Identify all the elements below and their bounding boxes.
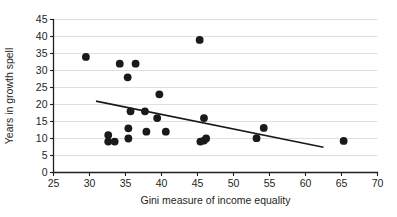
x-tick-label: 70 (372, 177, 384, 189)
y-tick-label: 25 (36, 81, 48, 93)
data-point (253, 134, 261, 142)
x-tick-label: 65 (336, 177, 348, 189)
x-axis-ticks: 25303540455055606570 (48, 173, 384, 190)
x-tick-label: 30 (84, 177, 96, 189)
y-tick-label: 10 (36, 132, 48, 144)
x-tick-label: 55 (264, 177, 276, 189)
x-tick-label: 35 (120, 177, 132, 189)
data-point (153, 114, 161, 122)
y-tick-label: 40 (36, 30, 48, 42)
y-tick-label: 35 (36, 47, 48, 59)
data-point (141, 107, 149, 115)
y-tick-label: 5 (42, 149, 48, 161)
data-point (202, 135, 210, 143)
data-point (260, 124, 268, 132)
data-point (340, 137, 348, 145)
y-tick-label: 30 (36, 64, 48, 76)
data-point (200, 114, 208, 122)
x-tick-label: 50 (228, 177, 240, 189)
x-tick-label: 40 (156, 177, 168, 189)
data-point (124, 73, 132, 81)
data-points (82, 36, 348, 145)
gridlines (54, 20, 378, 156)
y-tick-label: 20 (36, 98, 48, 110)
x-tick-label: 45 (192, 177, 204, 189)
data-point (155, 90, 163, 98)
data-point (111, 138, 119, 146)
chart-figure: 051015202530354045 25303540455055606570 … (0, 0, 397, 217)
y-axis-title: Years in growth spell (3, 48, 15, 145)
data-point (196, 36, 204, 44)
data-point (124, 124, 132, 132)
y-tick-label: 45 (36, 13, 48, 25)
x-tick-label: 60 (300, 177, 312, 189)
y-axis-ticks: 051015202530354045 (36, 13, 54, 178)
y-tick-label: 15 (36, 115, 48, 127)
scatter-plot: 051015202530354045 25303540455055606570 … (0, 0, 397, 217)
data-point (124, 135, 132, 143)
x-axis-title: Gini measure of income equality (141, 194, 292, 206)
data-point (82, 53, 90, 61)
data-point (132, 60, 140, 68)
data-point (127, 107, 135, 115)
data-point (116, 60, 124, 68)
x-tick-label: 25 (48, 177, 60, 189)
data-point (142, 128, 150, 136)
data-point (162, 128, 170, 136)
